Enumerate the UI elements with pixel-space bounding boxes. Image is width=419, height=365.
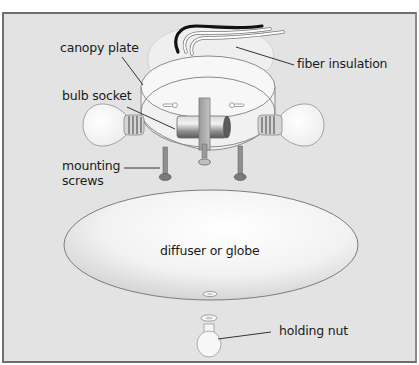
label-holding-nut: holding nut <box>279 323 348 338</box>
mounting-screw-right-icon <box>234 146 246 181</box>
label-diffuser-or-globe: diffuser or globe <box>160 243 260 258</box>
label-canopy-plate: canopy plate <box>60 40 139 55</box>
leader-canopy-plate <box>122 57 143 85</box>
label-fiber-insulation: fiber insulation <box>297 56 387 71</box>
washer-icon <box>201 315 217 321</box>
label-bulb-socket: bulb socket <box>62 88 131 103</box>
mounting-screw-left-icon <box>159 147 171 181</box>
holding-nut-icon <box>197 324 221 357</box>
label-mounting-screws: mounting screws <box>62 158 120 188</box>
leader-holding-nut <box>218 332 271 339</box>
